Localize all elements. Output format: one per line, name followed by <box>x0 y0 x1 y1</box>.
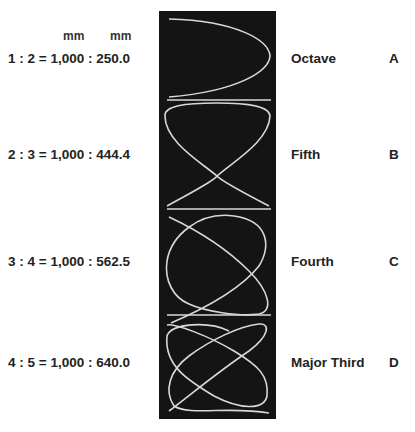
figure-letter-d: D <box>389 355 399 370</box>
interval-label-octave: Octave <box>291 51 336 66</box>
curve-major-third <box>167 324 269 413</box>
ratio-label-a: 1 : 2 = 1,000 : 250.0 <box>8 51 130 66</box>
figure-letter-b: B <box>389 147 399 162</box>
curve-fifth <box>165 103 270 206</box>
interval-label-major-third: Major Third <box>291 355 365 370</box>
figure-letter-a: A <box>389 51 399 66</box>
ratio-label-c: 3 : 4 = 1,000 : 562.5 <box>8 254 130 269</box>
lissajous-figures <box>159 11 276 419</box>
lissajous-panel <box>159 11 276 419</box>
ratio-label-d: 4 : 5 = 1,000 : 640.0 <box>8 355 130 370</box>
figure-letter-c: C <box>389 254 399 269</box>
unit-label-left: mm <box>63 29 84 43</box>
curve-fourth <box>166 215 267 323</box>
interval-label-fifth: Fifth <box>291 147 320 162</box>
interval-label-fourth: Fourth <box>291 254 334 269</box>
ratio-label-b: 2 : 3 = 1,000 : 444.4 <box>8 147 130 162</box>
curve-octave <box>169 19 270 97</box>
unit-label-right: mm <box>110 29 131 43</box>
